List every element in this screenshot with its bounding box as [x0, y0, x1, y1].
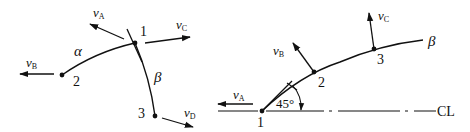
alpha-label: α: [74, 43, 83, 59]
point-1-label: 1: [140, 24, 147, 39]
curve-alpha: [62, 43, 135, 75]
point-2-right-label: 2: [318, 75, 325, 90]
angle-label: 45°: [276, 96, 294, 111]
point-3-label: 3: [138, 106, 145, 121]
vector-vA-arrow: [90, 24, 124, 39]
vB-label-left: vB: [26, 55, 37, 71]
diagram-canvas: 1 2 3 α β vA vC vB vD CL β 45° 1 2 3: [0, 0, 470, 132]
point-2-label: 2: [73, 74, 80, 89]
point-3-right-label: 3: [377, 52, 384, 67]
left-diagram: 1 2 3 α β vA vC vB vD: [20, 5, 196, 127]
right-diagram: CL β 45° 1 2 3 vA vB vC: [218, 8, 455, 130]
point-1: [133, 41, 138, 46]
beta-label-right: β: [427, 33, 436, 49]
vA-label-left: vA: [93, 5, 105, 21]
beta-label-left: β: [153, 69, 162, 85]
vector-vC-arrow-right: [369, 13, 374, 49]
point-1-right: [260, 109, 265, 114]
vB-label-right: vB: [273, 43, 284, 59]
vector-vB-arrow-right: [293, 43, 314, 72]
vC-label-left: vC: [176, 17, 187, 33]
vC-label-right: vC: [378, 8, 389, 24]
point-1-right-label: 1: [257, 115, 264, 130]
centerline-label: CL: [437, 104, 455, 119]
vector-vC-arrow: [145, 37, 190, 43]
point-2: [60, 73, 65, 78]
vA-label-right: vA: [233, 87, 245, 103]
vD-label-left: vD: [184, 105, 196, 121]
point-3: [153, 114, 158, 119]
